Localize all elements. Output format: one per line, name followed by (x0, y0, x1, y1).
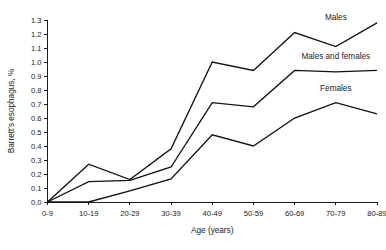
x-axis-title: Age (years) (191, 226, 234, 235)
y-tick-label: 0.6 (31, 114, 42, 123)
x-tick-label: 10-19 (79, 209, 98, 218)
series-line-males (48, 23, 378, 202)
y-tick-label: 1.3 (31, 16, 42, 25)
y-tick-label: 0.4 (31, 142, 42, 151)
x-tick-label: 30-39 (161, 209, 180, 218)
x-tick-label: 60-69 (285, 209, 304, 218)
y-tick-label: 0.7 (31, 100, 42, 109)
x-tick-label: 70-79 (326, 209, 345, 218)
x-tick-label: 50-59 (244, 209, 263, 218)
y-tick-label: 1.0 (31, 58, 42, 67)
y-tick-label: 1.2 (31, 30, 42, 39)
x-tick-label: 40-49 (203, 209, 222, 218)
series-line-females (48, 103, 378, 202)
y-tick-label: 0.2 (31, 170, 42, 179)
series-label-males-and-females: Males and females (301, 52, 370, 61)
series-label-males: Males (325, 13, 347, 22)
y-tick-label: 0.5 (31, 128, 42, 137)
y-tick-label: 0.0 (31, 198, 42, 207)
x-tick-label: 20-29 (120, 209, 139, 218)
y-tick-label: 1.1 (31, 44, 42, 53)
y-axis-title: Barrett's esophagus, % (7, 69, 16, 153)
x-tick-label: 80-89 (367, 209, 386, 218)
chart-canvas: 0.00.10.20.30.40.50.60.70.80.91.01.11.21… (0, 0, 386, 250)
y-tick-label: 0.9 (31, 72, 42, 81)
series-label-females: Females (320, 84, 351, 93)
y-tick-label: 0.3 (31, 156, 42, 165)
barretts-esophagus-line-chart: 0.00.10.20.30.40.50.60.70.80.91.01.11.21… (0, 0, 386, 250)
x-tick-label: 0-9 (42, 209, 53, 218)
y-tick-label: 0.1 (31, 184, 42, 193)
y-tick-label: 0.8 (31, 86, 42, 95)
